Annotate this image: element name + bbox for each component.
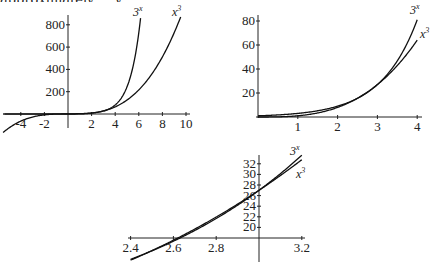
chart-3-ticks: 2.42.62.83.220222426283032 xyxy=(122,156,309,255)
x-tick-label: 2.6 xyxy=(165,240,182,255)
y-tick-label: 600 xyxy=(46,39,66,54)
chart-2: 123420406080 3x x3 xyxy=(242,2,429,134)
x-tick-label: 10 xyxy=(180,116,193,131)
x-tick-label: 2.8 xyxy=(208,240,224,255)
y-tick-label: 60 xyxy=(242,37,255,52)
chart-1-axes xyxy=(5,15,190,128)
chart-2-curves xyxy=(258,20,417,117)
x-tick-label: 4 xyxy=(414,119,421,134)
chart-3: 2.42.62.83.220222426283032 3x x3 xyxy=(122,143,309,262)
chart-3-label-x3: x3 xyxy=(295,166,305,181)
chart-2-curve-3x xyxy=(258,20,417,116)
x-tick-label: 8 xyxy=(159,116,166,131)
x-tick-label: 4 xyxy=(112,116,119,131)
y-tick-label: 200 xyxy=(46,84,66,99)
x-tick-label: 1 xyxy=(295,119,302,134)
x-tick-label: -2 xyxy=(39,116,50,131)
chart-2-label-3x: 3x xyxy=(409,2,420,17)
chart-1-curve-3x xyxy=(3,18,140,114)
x-tick-label: 3.2 xyxy=(294,240,310,255)
x-tick-label: 2 xyxy=(88,116,95,131)
charts-canvas: -4-2246810200400600800 3x x3 12342040608… xyxy=(0,0,440,267)
x-tick-label: 6 xyxy=(136,116,143,131)
y-tick-label: 32 xyxy=(243,156,256,171)
chart-1-label-3x: 3x xyxy=(132,4,143,19)
y-tick-label: 20 xyxy=(242,85,255,100)
y-tick-label: 800 xyxy=(46,17,66,32)
chart-2-curve-x3 xyxy=(258,40,417,117)
chart-1: -4-2246810200400600800 3x x3 xyxy=(3,4,192,133)
y-tick-label: 400 xyxy=(46,61,66,76)
chart-2-label-x3: x3 xyxy=(419,26,429,41)
x-tick-label: 2.4 xyxy=(122,240,139,255)
x-tick-label: 2 xyxy=(334,119,341,134)
x-tick-label: 3 xyxy=(374,119,381,134)
y-tick-label: 40 xyxy=(242,61,255,76)
chart-3-label-3x: 3x xyxy=(289,143,300,158)
y-tick-label: 80 xyxy=(242,13,255,28)
chart-1-label-x3: x3 xyxy=(171,4,181,19)
